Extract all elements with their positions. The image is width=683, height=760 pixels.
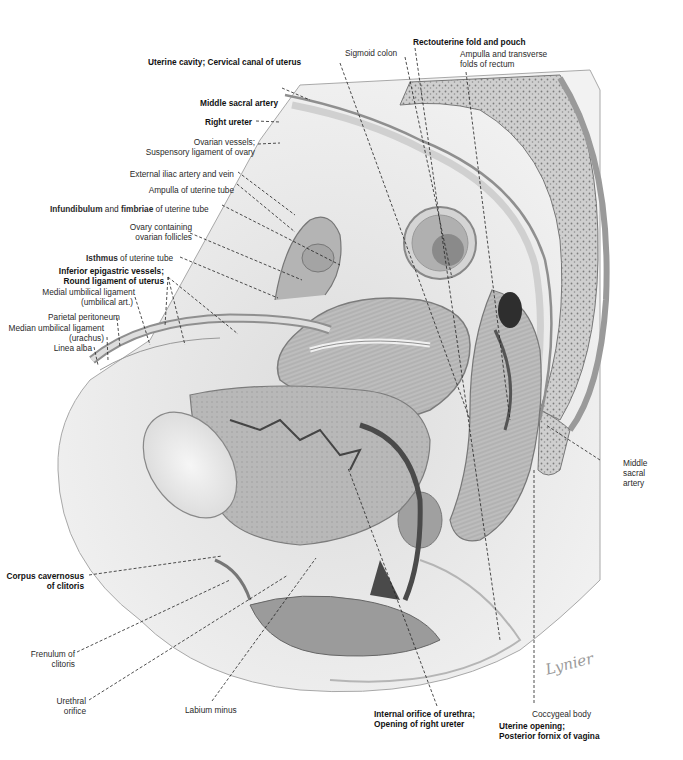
label-ampulla-tube: Ampulla of uterine tube bbox=[110, 185, 234, 195]
label-middle-sacral-artery-right-2: sacral bbox=[623, 468, 645, 478]
label-corpus-cavernosus-1: Corpus cavernosus bbox=[0, 571, 84, 581]
label-ovarian-vessels-1: Ovarian vessels; bbox=[120, 137, 255, 147]
label-urethral-orifice-1: Urethral bbox=[0, 696, 86, 706]
label-medial-umbilical-1: Medial umbilical ligament bbox=[20, 287, 135, 297]
label-right-ureter: Right ureter bbox=[170, 117, 252, 127]
label-middle-sacral-artery-right-3: artery bbox=[623, 478, 644, 488]
label-linea-alba: Linea alba bbox=[20, 343, 92, 353]
label-middle-sacral-artery-right-1: Middle bbox=[623, 458, 647, 468]
label-medial-umbilical-2: (umbilical art.) bbox=[20, 297, 133, 307]
label-isthmus-rest: of uterine tube bbox=[118, 253, 173, 263]
label-uterine-opening-2: Posterior fornix of vagina bbox=[499, 731, 600, 741]
label-inferior-epigastric-2: Round ligament of uterus bbox=[30, 276, 164, 286]
label-uterine-cavity: Uterine cavity; Cervical canal of uterus bbox=[148, 57, 301, 67]
label-infundibulum-rest: of uterine tube bbox=[153, 204, 208, 214]
label-ovary-1: Ovary containing bbox=[90, 222, 192, 232]
label-frenulum-2: clitoris bbox=[0, 659, 75, 669]
label-fimbriae-bold: fimbriae bbox=[121, 204, 153, 214]
label-parietal-peritoneum: Parietal peritoneum bbox=[20, 312, 120, 322]
label-inferior-epigastric-1: Inferior epigastric vessels; bbox=[30, 266, 164, 276]
label-isthmus: Isthmus of uterine tube bbox=[86, 253, 173, 263]
label-infundibulum-and: and bbox=[103, 204, 121, 214]
label-median-umbilical-1: Median umbilical ligament bbox=[0, 323, 104, 333]
label-median-umbilical-2: (urachus) bbox=[0, 333, 104, 343]
label-corpus-cavernosus-2: of clitoris bbox=[0, 581, 84, 591]
label-ovarian-vessels-2: Suspensory ligament of ovary bbox=[110, 147, 255, 157]
label-sigmoid-colon: Sigmoid colon bbox=[345, 48, 397, 58]
label-urethral-orifice-2: orifice bbox=[0, 706, 86, 716]
label-internal-orifice-2: Opening of right ureter bbox=[374, 719, 464, 729]
label-internal-orifice-1: Internal orifice of urethra; bbox=[374, 709, 475, 719]
label-ampulla-rectum-1: Ampulla and transverse bbox=[460, 49, 547, 59]
anatomical-illustration bbox=[0, 0, 683, 760]
label-external-iliac: External iliac artery and vein bbox=[100, 169, 234, 179]
label-middle-sacral-artery: Middle sacral artery bbox=[150, 98, 278, 108]
label-isthmus-bold: Isthmus bbox=[86, 253, 118, 263]
label-frenulum-1: Frenulum of bbox=[0, 649, 75, 659]
label-ovary-2: ovarian follicles bbox=[90, 232, 192, 242]
label-uterine-opening-1: Uterine opening; bbox=[499, 721, 565, 731]
label-infundibulum-bold: Infundibulum bbox=[50, 204, 103, 214]
label-ampulla-rectum-2: folds of rectum bbox=[460, 59, 514, 69]
label-coccygeal-body: Coccygeal body bbox=[532, 709, 591, 719]
label-rectouterine-fold: Rectouterine fold and pouch bbox=[413, 37, 525, 47]
label-labium-minus: Labium minus bbox=[185, 705, 237, 715]
label-infundibulum: Infundibulum and fimbriae of uterine tub… bbox=[50, 204, 209, 214]
